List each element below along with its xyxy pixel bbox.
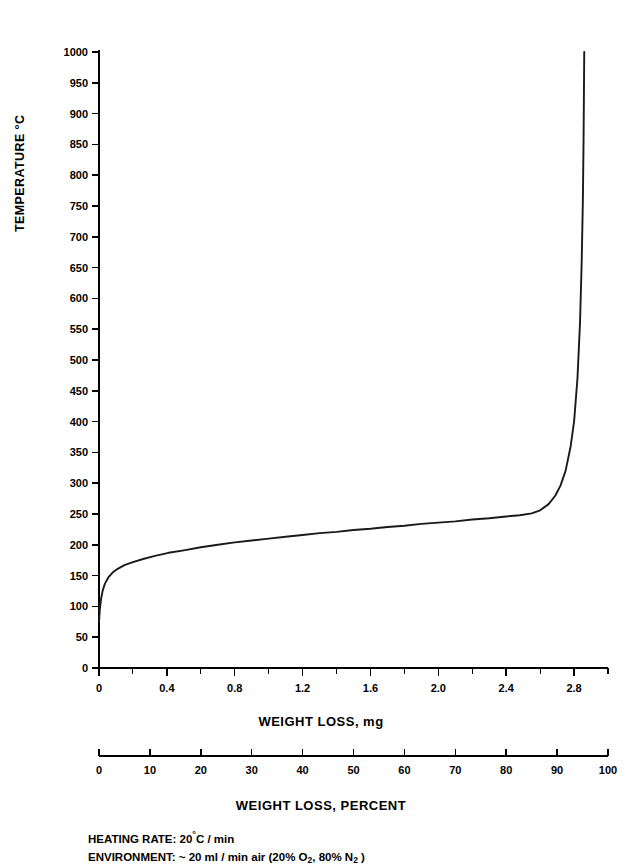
y-tick-label: 1000 [64, 46, 88, 58]
y-tick-label: 500 [70, 354, 88, 366]
y-axis-title-text: TEMPERATURE °C [13, 115, 27, 232]
y-tick-label: 950 [70, 77, 88, 89]
degree-icon: ° [192, 829, 196, 839]
figure-notes: HEATING RATE: 20°C / min ENVIRONMENT: ~ … [88, 826, 365, 864]
x-tick-label: 0 [96, 682, 102, 694]
y-tick-label: 900 [70, 108, 88, 120]
main-plot-svg: 0501001502002503003504004505005506006507… [0, 0, 642, 700]
x-tick-label: 2.4 [499, 682, 515, 694]
percent-tick-label: 10 [144, 764, 156, 776]
x-tick-label: 0.8 [227, 682, 242, 694]
x-tick-label: 2.8 [566, 682, 581, 694]
note-heating-rate: HEATING RATE: 20°C / min [88, 826, 365, 848]
percent-tick-label: 20 [195, 764, 207, 776]
percent-axis-area: 0102030405060708090100 [0, 748, 642, 794]
percent-axis-svg: 0102030405060708090100 [0, 748, 642, 794]
note-environment-mid: , 80% N [312, 851, 353, 863]
x-tick-label: 1.6 [363, 682, 378, 694]
y-tick-label: 250 [70, 508, 88, 520]
y-tick-label: 550 [70, 323, 88, 335]
y-tick-label: 400 [70, 416, 88, 428]
note-heating-rate-prefix: HEATING RATE: 20 [88, 833, 192, 845]
x-tick-label: 0.4 [159, 682, 175, 694]
y-tick-label: 800 [70, 169, 88, 181]
percent-tick-label: 100 [599, 764, 617, 776]
percent-tick-label: 90 [551, 764, 563, 776]
note-heating-rate-suffix: C / min [196, 833, 234, 845]
y-axis-title: TEMPERATURE °C [13, 0, 27, 232]
main-plot-area: 0501001502002503003504004505005506006507… [0, 0, 642, 700]
x-tick-label: 1.2 [295, 682, 310, 694]
x-axis-title-percent: WEIGHT LOSS, PERCENT [0, 798, 642, 813]
note-environment: ENVIRONMENT: ~ 20 ml / min air (20% O2, … [88, 848, 365, 864]
tga-curve [99, 52, 584, 622]
x-axis-title-mg: WEIGHT LOSS, mg [0, 714, 642, 729]
percent-tick-label: 30 [246, 764, 258, 776]
percent-tick-label: 70 [449, 764, 461, 776]
o2-subscript: 2 [308, 855, 313, 864]
percent-tick-label: 40 [296, 764, 308, 776]
note-environment-suffix: ) [358, 851, 365, 863]
y-tick-label: 150 [70, 570, 88, 582]
percent-tick-label: 50 [347, 764, 359, 776]
y-tick-label: 700 [70, 231, 88, 243]
y-tick-label: 450 [70, 385, 88, 397]
percent-tick-label: 60 [398, 764, 410, 776]
percent-tick-label: 80 [500, 764, 512, 776]
note-environment-prefix: ENVIRONMENT: ~ 20 ml / min air (20% O [88, 851, 308, 863]
y-tick-label: 750 [70, 200, 88, 212]
percent-tick-label: 0 [96, 764, 102, 776]
n2-subscript: 2 [353, 855, 358, 864]
y-tick-label: 600 [70, 292, 88, 304]
y-tick-label: 0 [82, 662, 88, 674]
y-tick-label: 650 [70, 262, 88, 274]
y-tick-label: 350 [70, 446, 88, 458]
y-tick-label: 100 [70, 600, 88, 612]
tga-chart-figure: 0501001502002503003504004505005506006507… [0, 0, 642, 864]
y-tick-label: 850 [70, 138, 88, 150]
y-tick-label: 300 [70, 477, 88, 489]
y-tick-label: 50 [76, 631, 88, 643]
x-tick-label: 2.0 [431, 682, 446, 694]
y-tick-label: 200 [70, 539, 88, 551]
